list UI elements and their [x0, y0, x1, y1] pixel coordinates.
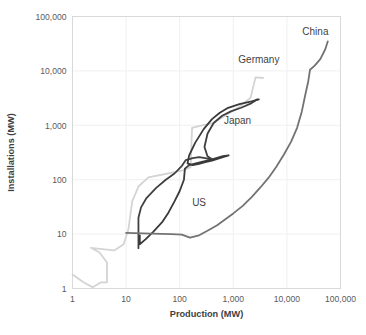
series-label-us: US — [192, 197, 206, 208]
series-annotations: GermanyJapanUSChina — [192, 26, 329, 208]
x-axis-title: Production (MW) — [170, 309, 243, 319]
chart-container: 1101001,00010,000100,000 1101001,00010,0… — [0, 0, 366, 335]
y-axis-tick-labels: 1101001,00010,000100,000 — [35, 12, 66, 294]
x-axis-tick-labels: 1101001,00010,000100,000 — [70, 294, 356, 304]
x-tick-label: 1,000 — [223, 294, 245, 304]
y-tick-label: 100,000 — [35, 12, 66, 22]
y-tick-label: 1,000 — [45, 121, 67, 131]
x-tick-label: 10,000 — [274, 294, 301, 304]
series-line-germany — [73, 77, 264, 287]
x-tick-label: 100 — [173, 294, 188, 304]
series-label-germany: Germany — [238, 54, 279, 65]
series-label-japan: Japan — [224, 115, 251, 126]
x-tick-label: 10 — [121, 294, 131, 304]
data-series-lines — [73, 41, 328, 287]
y-tick-label: 10,000 — [40, 66, 67, 76]
y-tick-label: 1 — [62, 284, 67, 294]
x-tick-label: 100,000 — [325, 294, 356, 304]
x-tick-label: 1 — [70, 294, 75, 304]
log-log-chart: 1101001,00010,000100,000 1101001,00010,0… — [0, 0, 366, 335]
y-tick-label: 100 — [52, 175, 67, 185]
series-label-china: China — [302, 26, 329, 37]
y-axis-title: Installations (MW) — [6, 113, 16, 192]
y-tick-label: 10 — [57, 229, 67, 239]
